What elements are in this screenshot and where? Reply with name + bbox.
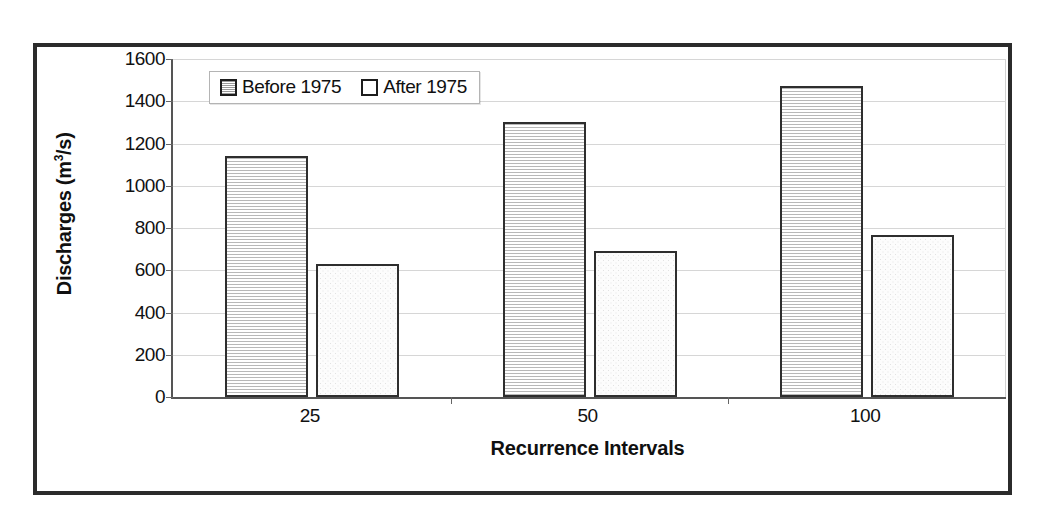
y-tick-mark — [166, 228, 173, 229]
y-tick-label: 200 — [99, 344, 165, 366]
x-tick-label: 25 — [300, 405, 320, 427]
y-tick-label: 400 — [99, 302, 165, 324]
x-tick-label: 100 — [850, 405, 880, 427]
legend-entry: After 1975 — [361, 76, 467, 98]
plot-area — [171, 59, 1006, 399]
legend-swatch-icon — [220, 79, 237, 96]
y-tick-mark — [166, 101, 173, 102]
x-tick-mark — [728, 397, 729, 404]
chart-legend: Before 1975After 1975 — [209, 71, 480, 104]
y-axis-tick-labels: 02004006008001000120014001600 — [99, 59, 165, 397]
y-axis-title-prefix: Discharges (m — [53, 161, 75, 295]
gridline — [173, 59, 1006, 60]
y-axis-title: Discharges (m3/s) — [52, 109, 76, 319]
bar — [780, 86, 863, 397]
y-tick-label: 1600 — [99, 48, 165, 70]
figure-frame: Discharges (m3/s) 0200400600800100012001… — [33, 43, 1012, 495]
y-axis-title-suffix: /s) — [53, 132, 75, 154]
x-axis-title: Recurrence Intervals — [171, 437, 1004, 460]
y-tick-label: 600 — [99, 259, 165, 281]
legend-label: Before 1975 — [242, 76, 341, 98]
y-tick-mark — [166, 186, 173, 187]
y-tick-label: 1400 — [99, 90, 165, 112]
y-tick-label: 1200 — [99, 133, 165, 155]
legend-label: After 1975 — [383, 76, 467, 98]
bar — [503, 122, 586, 397]
legend-entry: Before 1975 — [220, 76, 341, 98]
bar — [225, 156, 308, 397]
x-tick-label: 50 — [577, 405, 597, 427]
y-tick-mark — [166, 355, 173, 356]
y-tick-label: 0 — [99, 386, 165, 408]
y-tick-mark — [166, 397, 173, 398]
y-tick-mark — [166, 59, 173, 60]
gridline — [173, 144, 1006, 145]
y-tick-mark — [166, 313, 173, 314]
legend-swatch-icon — [361, 79, 378, 96]
x-axis-tick-labels: 2550100 — [171, 405, 1004, 433]
y-tick-mark — [166, 144, 173, 145]
bar-chart: Discharges (m3/s) 0200400600800100012001… — [37, 47, 1008, 491]
bar — [594, 251, 677, 397]
bar — [871, 235, 954, 397]
y-tick-label: 1000 — [99, 175, 165, 197]
y-tick-label: 800 — [99, 217, 165, 239]
y-tick-mark — [166, 270, 173, 271]
bar — [316, 264, 399, 397]
y-axis-title-superscript: 3 — [52, 155, 66, 161]
x-tick-mark — [451, 397, 452, 404]
